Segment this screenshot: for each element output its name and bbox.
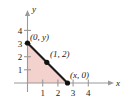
x-axis-label: x xyxy=(115,78,120,88)
x-tick-label-3: 3 xyxy=(71,88,76,98)
x-axis-arrowhead xyxy=(108,80,114,85)
y-tick-label-1: 1 xyxy=(18,65,23,75)
y-axis-label: y xyxy=(31,4,36,14)
point-label-x-0: (x, 0) xyxy=(70,70,89,80)
point-label-0-y: (0, y) xyxy=(30,32,49,42)
data-point-1-2 xyxy=(44,60,49,65)
point-label-1-2: (1, 2) xyxy=(50,49,70,59)
x-tick-label-1: 1 xyxy=(40,88,45,98)
y-axis-arrowhead xyxy=(25,10,30,16)
y-tick-label-3: 3 xyxy=(18,39,23,49)
x-tick-label-4: 4 xyxy=(86,88,91,98)
y-tick-label-2: 2 xyxy=(18,52,23,62)
figure-svg: 1 2 3 4 1 2 3 4 x y (0, y) (1, 2) (x, 0) xyxy=(0,0,127,105)
y-tick-label-4: 4 xyxy=(18,26,23,36)
coordinate-plane-figure: 1 2 3 4 1 2 3 4 x y (0, y) (1, 2) (x, 0) xyxy=(0,0,127,105)
data-point-x-0 xyxy=(65,80,70,85)
x-tick-label-2: 2 xyxy=(56,88,61,98)
